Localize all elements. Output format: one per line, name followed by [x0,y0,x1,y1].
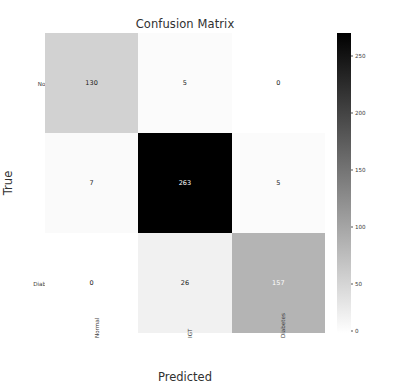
matrix-cell: 0 [232,33,325,133]
x-tick-label-normal: Normal [94,318,100,338]
cell-value: 0 [90,280,94,287]
colorbar-tick-label: 150 [355,167,366,173]
matrix-cell: 26 [138,233,231,333]
matrix-cell: 0 [45,233,138,333]
cell-value: 7 [90,180,94,187]
cell-value: 130 [85,80,98,87]
colorbar-tick-mark [351,55,353,56]
colorbar-tick-mark [351,112,353,113]
colorbar-tick-label: 100 [355,224,366,230]
colorbar-tick-label: 0 [355,328,359,334]
colorbar-tick-mark [351,169,353,170]
colorbar-tick-label: 250 [355,53,366,59]
cell-value: 0 [276,80,280,87]
colorbar-tick-mark [351,226,353,227]
colorbar-tick-mark [351,330,353,331]
matrix-cell: 5 [138,33,231,133]
matrix-cell: 157 [232,233,325,333]
cell-value: 5 [183,80,187,87]
cell-value: 26 [181,280,189,287]
matrix-cell: 263 [138,133,231,233]
colorbar-tick-label: 50 [355,281,362,287]
matrix-cell: 130 [45,33,138,133]
cell-value: 5 [276,180,280,187]
cell-value: 263 [179,180,192,187]
matrix-cell: 7 [45,133,138,233]
colorbar-tick-label: 200 [355,110,366,116]
matrix-cell: 5 [232,133,325,233]
colorbar: 250200150100500 [337,33,351,333]
heatmap-plot-area: 130 5 0 7 263 5 0 26 157 [45,33,325,333]
confusion-matrix-grid: 130 5 0 7 263 5 0 26 157 [45,33,325,333]
page-title: Confusion Matrix [40,17,330,31]
colorbar-gradient [337,33,351,333]
confusion-matrix-figure: Confusion Matrix True Normal IGT Diabete… [0,0,394,392]
x-tick-label-igt: IGT [187,329,193,338]
x-axis-label: Predicted [45,370,325,384]
colorbar-tick-mark [351,283,353,284]
cell-value: 157 [272,280,285,287]
x-tick-label-diabetes: Diabetes [280,313,286,338]
